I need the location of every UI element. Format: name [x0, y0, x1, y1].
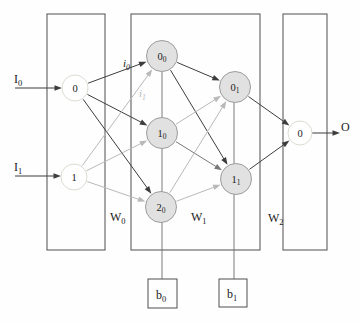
- label-edge-i1: i1: [139, 87, 146, 102]
- edge-h00-h11-arrowhead: [221, 157, 227, 165]
- input-layer-box: [47, 14, 105, 250]
- neural-network-figure: 0100102001110I0I1Oi0i1W0W1W2b0b1: [0, 0, 361, 323]
- edge-h20-h11: [176, 187, 215, 202]
- edge-in1-h20-arrowhead: [137, 197, 145, 202]
- edge-h20-h11-arrowhead: [213, 185, 221, 190]
- edge-h10-h11-arrowhead: [214, 164, 222, 170]
- input-arrow-I1-arrowhead: [54, 173, 62, 179]
- output-arrow-O-arrowhead: [333, 130, 341, 136]
- edge-in1-h00-arrowhead: [146, 69, 153, 77]
- edge-in1-h20: [87, 182, 140, 200]
- label-input-I0: I0: [14, 72, 22, 88]
- edge-h10-h01: [176, 99, 216, 124]
- label-bias-b0: b0: [156, 288, 166, 304]
- edge-h20-h01-arrowhead: [220, 101, 226, 109]
- edge-in0-h00-arrowhead: [139, 62, 147, 67]
- edge-in0-h00: [88, 64, 141, 84]
- edge-h20-h01: [170, 106, 224, 193]
- edge-h10-h01-arrowhead: [213, 96, 221, 102]
- edge-in1-h10-arrowhead: [139, 140, 147, 146]
- edge-in0-h10-arrowhead: [139, 119, 147, 125]
- label-input-I1: I1: [14, 160, 22, 176]
- edge-h01-out0: [248, 97, 284, 123]
- edge-h00-h01: [177, 62, 215, 78]
- edge-in0-h20-arrowhead: [145, 186, 152, 194]
- neural-network-diagram: 0100102001110I0I1Oi0i1W0W1W2b0b1: [0, 0, 361, 323]
- label-weights-W2: W2: [268, 211, 284, 227]
- edge-in0-h10: [87, 94, 142, 122]
- node-out0-label: 0: [297, 128, 302, 139]
- label-weights-W1: W1: [191, 210, 207, 226]
- edge-h00-h01-arrowhead: [212, 75, 220, 81]
- label-output-O: O: [341, 120, 350, 134]
- edge-h11-out0: [249, 144, 285, 170]
- node-in0-label: 0: [72, 83, 77, 94]
- label-bias-b1: b1: [227, 287, 237, 303]
- edge-in1-h10: [87, 143, 143, 171]
- edge-h10-h11: [176, 142, 217, 168]
- input-arrow-I0-arrowhead: [55, 85, 63, 91]
- label-weights-W0: W0: [110, 210, 126, 226]
- node-in1-label: 1: [71, 172, 76, 183]
- edge-h00-h11: [171, 70, 225, 160]
